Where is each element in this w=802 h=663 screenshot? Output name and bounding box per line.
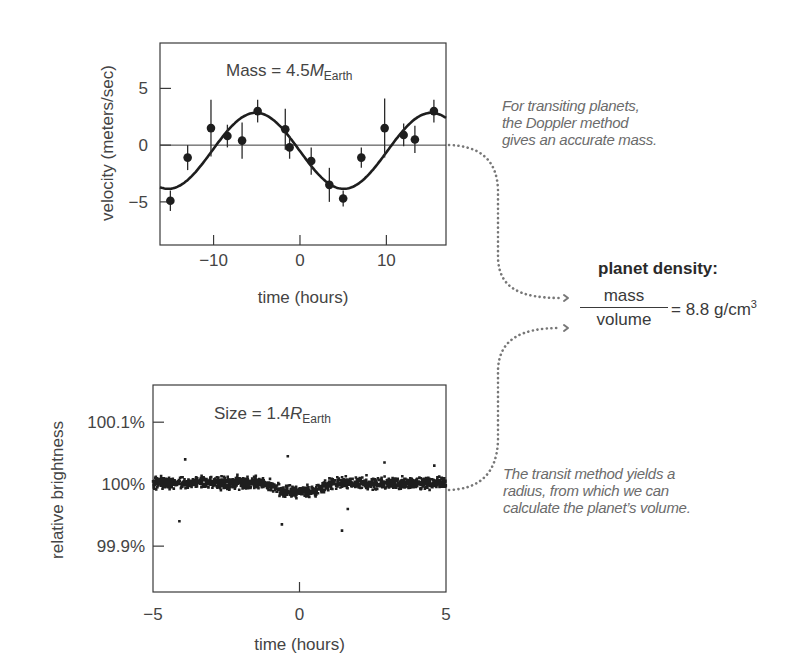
fraction-bar	[580, 307, 668, 308]
doppler-note-line: For transiting planets,	[502, 97, 657, 114]
density-result: = 8.8 g/cm3	[671, 298, 757, 320]
velocity-data-point	[285, 143, 294, 152]
svg-text:0: 0	[295, 605, 304, 624]
doppler-mass-label: Mass = 4.5MEarth	[226, 61, 352, 83]
velocity-data-point	[253, 107, 262, 116]
svg-text:5: 5	[139, 79, 148, 98]
velocity-data-point	[183, 153, 192, 162]
velocity-data-point	[207, 124, 216, 133]
density-exponent: 3	[751, 298, 757, 310]
doppler-note-line: gives an accurate mass.	[502, 131, 657, 148]
brightness-scatter	[152, 455, 447, 532]
velocity-data-point	[380, 124, 389, 133]
transit-note-line: calculate the planet’s volume.	[503, 499, 691, 516]
svg-text:100%: 100%	[102, 475, 145, 494]
volume-arrow-icon	[564, 325, 568, 331]
velocity-data-point	[339, 194, 348, 203]
density-value: = 8.8 g/cm	[671, 300, 751, 319]
transit-data-points	[152, 455, 447, 532]
transit-note-line: The transit method yields a	[503, 465, 691, 482]
transit-method-note: The transit method yields a radius, from…	[503, 465, 691, 516]
doppler-axis-ticks: −1001050−5	[129, 79, 396, 270]
svg-text:0: 0	[295, 251, 304, 270]
velocity-data-point	[325, 181, 334, 190]
svg-text:−5: −5	[129, 193, 148, 212]
mass-arrow-icon	[564, 295, 568, 301]
density-fraction: mass volume	[578, 286, 670, 330]
doppler-method-note: For transiting planets, the Doppler meth…	[502, 97, 657, 148]
velocity-data-point	[281, 125, 290, 134]
velocity-data-point	[399, 131, 408, 140]
doppler-velocity-chart: −1001050−5 Mass = 4.5MEarth time (hours)…	[98, 43, 446, 307]
svg-text:−5: −5	[143, 605, 162, 624]
svg-text:100.1%: 100.1%	[87, 413, 145, 432]
velocity-data-point	[430, 107, 439, 116]
doppler-x-axis-label: time (hours)	[258, 288, 349, 307]
svg-text:99.9%: 99.9%	[97, 537, 145, 556]
dotted-connectors	[449, 145, 560, 490]
svg-text:10: 10	[377, 251, 396, 270]
velocity-data-point	[411, 135, 420, 144]
velocity-data-point	[307, 157, 316, 166]
svg-text:0: 0	[139, 136, 148, 155]
connector-arrowheads	[564, 295, 568, 331]
velocity-data-point	[166, 196, 175, 205]
svg-text:5: 5	[441, 605, 450, 624]
doppler-note-line: the Doppler method	[502, 114, 657, 131]
figure: −1001050−5 Mass = 4.5MEarth time (hours)…	[0, 0, 802, 663]
transit-note-line: radius, from which we can	[503, 482, 691, 499]
fraction-numerator: mass	[578, 286, 670, 306]
transit-size-label: Size = 1.4REarth	[214, 404, 331, 426]
svg-text:−10: −10	[199, 251, 228, 270]
fraction-denominator: volume	[578, 310, 670, 330]
mass-connector-path	[449, 145, 560, 298]
velocity-data-point	[223, 132, 232, 141]
velocity-data-point	[357, 153, 366, 162]
planet-density-title: planet density:	[598, 259, 718, 279]
transit-brightness-chart: −505100.1%100%99.9% Size = 1.4REarth tim…	[48, 385, 451, 654]
velocity-data-point	[238, 136, 247, 145]
doppler-y-axis-label: velocity (meters/sec)	[98, 65, 117, 221]
transit-y-axis-label: relative brightness	[48, 421, 67, 559]
transit-x-axis-label: time (hours)	[254, 635, 345, 654]
